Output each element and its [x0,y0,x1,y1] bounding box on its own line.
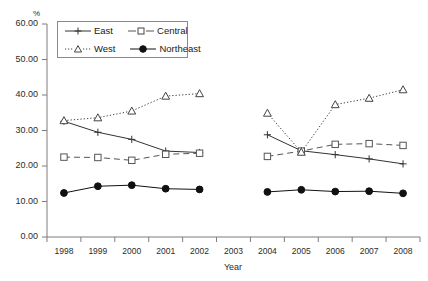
y-axis-tick-label: 40.00 [4,90,38,99]
x-axis-tick-label: 2005 [284,247,318,256]
legend-entry-east: East [64,22,113,39]
legend-label-west: West [92,43,115,54]
data-point-marker [60,117,68,124]
data-point-marker [94,129,101,136]
data-point-marker [196,186,203,193]
data-point-marker [162,92,170,99]
y-axis-tick-label: 20.00 [4,161,38,170]
x-axis-tick-label: 2001 [149,247,183,256]
data-point-marker [196,90,204,97]
data-point-marker [162,151,168,157]
data-point-marker [400,142,406,148]
data-point-marker [129,157,135,163]
x-axis-tick-label: 2002 [183,247,217,256]
data-point-marker [298,186,305,193]
data-point-marker [366,155,373,162]
y-axis-tick-label: 60.00 [4,19,38,28]
data-point-marker [128,136,135,143]
data-point-marker [196,150,202,156]
y-axis-tick-label: 50.00 [4,55,38,64]
series-central [61,140,406,163]
line-chart: % 0.0010.0020.0030.0040.0050.0060.00 199… [0,0,428,281]
data-point-marker [366,188,373,195]
legend-swatch-central [127,25,155,37]
x-axis-tick-label: 2006 [318,247,352,256]
series-northeast [61,182,407,197]
series-west [60,86,407,155]
x-axis-tick-label: 2008 [386,247,420,256]
data-point-marker [61,190,68,197]
data-point-marker [128,182,135,189]
data-point-marker [332,141,338,147]
x-axis-tick-label: 2004 [250,247,284,256]
chart-legend: East Central West [57,21,188,58]
data-point-marker [264,189,271,196]
x-axis-title: Year [203,262,263,272]
y-axis-tick-label: 10.00 [4,197,38,206]
y-axis-ticks [42,24,47,237]
series-line [267,135,403,164]
legend-swatch-east [64,25,92,37]
legend-label-central: Central [155,25,188,36]
data-point-marker [264,131,271,138]
legend-label-northeast: Northeast [157,43,200,54]
data-point-marker [399,160,406,167]
legend-swatch-west [64,43,92,55]
x-axis-tick-label: 2003 [217,247,251,256]
x-axis-tick-label: 1999 [81,247,115,256]
data-point-marker [95,154,101,160]
data-point-marker [128,107,136,114]
legend-entry-northeast: Northeast [129,40,200,57]
legend-row-1: East Central [58,22,189,39]
legend-label-east: East [92,25,113,36]
data-point-marker [332,151,339,158]
x-axis-tick-label: 1998 [47,247,81,256]
data-point-marker [400,190,407,197]
data-point-marker [366,140,372,146]
data-point-marker [94,183,101,190]
y-axis-unit-label: % [33,9,40,18]
data-point-marker [162,185,169,192]
legend-swatch-northeast [129,43,157,55]
legend-row-2: West Northeast [58,40,189,57]
x-axis-tick-label: 2000 [115,247,149,256]
x-axis-tick-label: 2007 [352,247,386,256]
data-series-layer [60,86,407,197]
y-axis-tick-label: 30.00 [4,126,38,135]
legend-entry-west: West [64,40,115,57]
data-point-marker [399,86,407,93]
data-point-marker [61,154,67,160]
data-point-marker [365,94,373,101]
x-axis-ticks [47,237,420,242]
data-point-marker [332,188,339,195]
series-east [60,118,406,168]
legend-entry-central: Central [127,22,188,39]
data-point-marker [264,109,272,116]
data-point-marker [264,153,270,159]
y-axis-tick-label: 0.00 [4,232,38,241]
